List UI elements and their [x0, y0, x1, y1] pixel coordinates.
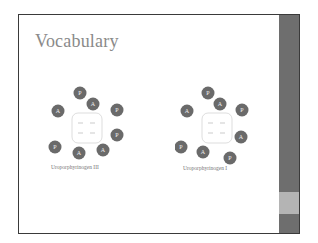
propionate-group-icon: P	[74, 87, 87, 100]
slide-title: Vocabulary	[35, 31, 119, 52]
slide: Vocabulary PAAPPPAA Uroporphyrinogen III…	[18, 14, 300, 234]
svg-text:A: A	[185, 108, 190, 114]
caption-uroporphyrinogen-iii: Uroporphyrinogen III	[51, 164, 99, 170]
propionate-group-icon: P	[175, 141, 188, 154]
svg-text:A: A	[77, 150, 82, 156]
decorative-sidebar	[279, 15, 299, 233]
uroporphyrinogen-iii-diagram: PAAPPPAA	[45, 83, 135, 173]
uroporphyrinogen-i-diagram: PAAPAPAP	[175, 83, 265, 173]
acetate-group-icon: A	[52, 105, 65, 118]
propionate-group-icon: P	[49, 141, 62, 154]
svg-text:A: A	[239, 134, 244, 140]
svg-text:A: A	[201, 149, 206, 155]
porphyrinogen-structure-icon: PAAPPPAA	[45, 83, 135, 173]
acetate-group-icon: A	[97, 144, 110, 157]
propionate-group-icon: P	[202, 87, 215, 100]
sidebar-accent-band	[279, 192, 299, 214]
acetate-group-icon: A	[197, 146, 210, 159]
acetate-group-icon: A	[87, 98, 100, 111]
propionate-group-icon: P	[236, 104, 249, 117]
svg-text:A: A	[218, 101, 223, 107]
caption-uroporphyrinogen-i: Uroporphyrinogen I	[183, 165, 227, 171]
svg-text:A: A	[101, 147, 106, 153]
acetate-group-icon: A	[73, 147, 86, 160]
acetate-group-icon: A	[235, 131, 248, 144]
svg-text:A: A	[56, 108, 61, 114]
acetate-group-icon: A	[181, 105, 194, 118]
propionate-group-icon: P	[224, 152, 237, 165]
propionate-group-icon: P	[111, 129, 124, 142]
svg-text:A: A	[91, 101, 96, 107]
acetate-group-icon: A	[214, 98, 227, 111]
propionate-group-icon: P	[111, 104, 124, 117]
porphyrinogen-structure-icon: PAAPAPAP	[175, 83, 265, 173]
